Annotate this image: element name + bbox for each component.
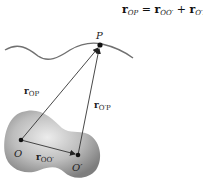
label-o-prime: O′ bbox=[72, 162, 83, 173]
point-o bbox=[19, 138, 24, 143]
vector-diagram: P O O′ rOP rO′P rOO′ bbox=[0, 0, 203, 180]
point-o-prime bbox=[76, 153, 81, 158]
label-p: P bbox=[95, 30, 103, 41]
label-r-o-prime-p: rO′P bbox=[94, 100, 111, 112]
rigid-body-blob bbox=[4, 110, 100, 177]
label-r-op: rOP bbox=[24, 86, 39, 98]
label-o: O bbox=[14, 148, 22, 159]
trajectory-curve bbox=[5, 43, 133, 59]
point-p bbox=[97, 42, 102, 47]
